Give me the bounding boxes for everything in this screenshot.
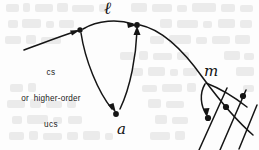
node-left-vertex <box>77 27 82 32</box>
node-dot-middle <box>223 104 229 110</box>
label-line-1: cs <box>9 69 93 78</box>
script-a-label: a <box>117 120 126 138</box>
curve-a-up-to-top-vertex <box>120 31 137 109</box>
diagram-page: cs or higher-order ucs ℓ a m <box>0 0 259 150</box>
cs-or-higher-order-ucs-label: cs or higher-order ucs <box>9 52 93 147</box>
arrow-left-vertex-to-top-vertex <box>83 21 133 29</box>
arrow-incoming-from-lower-left <box>24 31 77 50</box>
script-l-label: ℓ <box>104 0 111 19</box>
node-dot-lower-left <box>205 115 211 121</box>
label-line-3: ucs <box>9 121 93 130</box>
diagonal-line-left <box>199 88 227 150</box>
node-dot-upper-right <box>240 93 246 99</box>
node-a-vertex <box>113 111 119 117</box>
script-m-label: m <box>204 62 218 80</box>
node-top-vertex <box>134 22 140 28</box>
diagonal-line-right <box>239 105 257 149</box>
main-curve-top-vertex-to-m <box>140 25 253 135</box>
label-line-2: or higher-order <box>9 95 93 104</box>
